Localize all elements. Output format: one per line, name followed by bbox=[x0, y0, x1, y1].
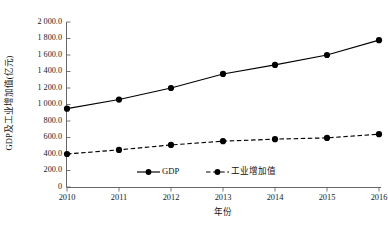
line-chart: GDP及工业增加值(亿元) 2 000.0 1 800.0 1 600.0 1 … bbox=[0, 0, 388, 229]
y-axis-title: GDP及工业增加值(亿元) bbox=[3, 55, 14, 150]
legend-label-industrial: 工业增加值 bbox=[231, 165, 276, 176]
series-industrial-added-value bbox=[64, 131, 382, 157]
y-tick-label: 1 600.0 bbox=[37, 50, 62, 59]
data-point bbox=[168, 85, 174, 91]
data-point bbox=[272, 62, 278, 68]
y-tick-label: 400.0 bbox=[44, 149, 62, 158]
data-point bbox=[220, 71, 226, 77]
y-tick-label: 800.0 bbox=[44, 116, 62, 125]
x-tick-label: 2013 bbox=[215, 193, 232, 202]
x-tick-label: 2015 bbox=[319, 193, 336, 202]
data-point bbox=[64, 106, 70, 112]
legend-item-gdp: GDP bbox=[137, 166, 179, 176]
chart-container: GDP及工业增加值(亿元) 2 000.0 1 800.0 1 600.0 1 … bbox=[0, 0, 388, 229]
legend-marker-industrial bbox=[215, 169, 221, 175]
data-point bbox=[272, 136, 278, 142]
y-tick-label: 1 200.0 bbox=[37, 83, 62, 92]
y-tick-label: 600.0 bbox=[44, 132, 62, 141]
data-point bbox=[324, 135, 330, 141]
data-point bbox=[64, 151, 70, 157]
x-tick-label: 2011 bbox=[111, 193, 127, 202]
data-point bbox=[220, 138, 226, 144]
y-tick-label: 1 000.0 bbox=[37, 99, 62, 108]
x-axis-title: 年份 bbox=[214, 206, 232, 217]
y-tick-label: 0 bbox=[58, 182, 62, 191]
series-layer bbox=[64, 37, 382, 157]
y-axis-ticks bbox=[67, 22, 71, 187]
legend-label-gdp: GDP bbox=[162, 166, 179, 176]
y-tick-label: 1 400.0 bbox=[37, 66, 62, 75]
y-axis-labels: 2 000.0 1 800.0 1 600.0 1 400.0 1 200.0 … bbox=[37, 17, 62, 191]
x-tick-label: 2014 bbox=[267, 193, 285, 202]
x-axis-labels: 2010 2011 2012 2013 2014 2015 2016 bbox=[59, 193, 388, 202]
x-axis-ticks bbox=[67, 188, 379, 192]
data-point bbox=[376, 131, 382, 137]
x-tick-label: 2012 bbox=[163, 193, 180, 202]
series-gdp bbox=[64, 37, 382, 112]
y-tick-label: 1 800.0 bbox=[37, 33, 62, 42]
legend-marker-gdp bbox=[146, 169, 152, 175]
chart-legend: GDP 工业增加值 bbox=[137, 165, 276, 176]
data-point bbox=[116, 147, 122, 153]
data-point bbox=[376, 37, 382, 43]
y-tick-label: 2 000.0 bbox=[37, 17, 62, 26]
data-point bbox=[324, 52, 330, 58]
x-tick-label: 2016 bbox=[371, 193, 388, 202]
legend-item-industrial: 工业增加值 bbox=[206, 165, 276, 176]
data-point bbox=[116, 96, 122, 102]
x-tick-label: 2010 bbox=[59, 193, 76, 202]
data-point bbox=[168, 142, 174, 148]
y-tick-label: 200.0 bbox=[44, 165, 62, 174]
